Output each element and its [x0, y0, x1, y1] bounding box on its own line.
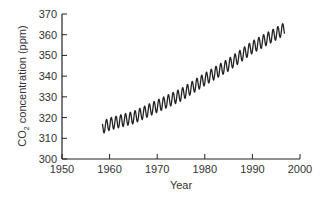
y-axis-ticks: 300310320330340350360370: [39, 8, 67, 165]
x-axis-label: Year: [170, 179, 193, 191]
y-tick-label: 320: [39, 112, 57, 124]
co2-series-line: [102, 24, 284, 133]
y-axis-label: CO2 concentration (ppm): [16, 25, 30, 146]
y-tick-label: 370: [39, 8, 57, 20]
x-tick-label: 1960: [97, 163, 121, 175]
y-axis-label-co: CO: [16, 130, 28, 147]
x-tick-label: 1950: [50, 163, 74, 175]
x-tick-label: 1970: [145, 163, 169, 175]
y-tick-label: 350: [39, 49, 57, 61]
x-axis-ticks: 195019601970198019902000: [50, 154, 312, 175]
y-tick-label: 340: [39, 70, 57, 82]
co2-line-chart: 300310320330340350360370 195019601970198…: [0, 0, 329, 197]
y-tick-label: 330: [39, 91, 57, 103]
y-tick-label: 360: [39, 29, 57, 41]
y-axis-label-rest: concentration (ppm): [16, 25, 28, 126]
x-tick-label: 2000: [288, 163, 312, 175]
x-tick-label: 1990: [240, 163, 264, 175]
x-tick-label: 1980: [193, 163, 217, 175]
y-tick-label: 310: [39, 132, 57, 144]
